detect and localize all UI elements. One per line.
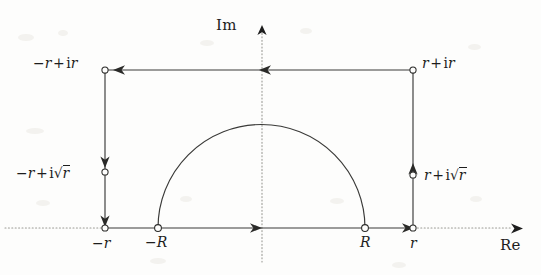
real-axis-label: Re [500,238,521,253]
paper-speckle [468,44,481,50]
marker-bottom-left [102,225,108,231]
plus-sign: + [429,55,444,71]
label-minus-r-axis: −r [92,236,110,250]
radical-sign: √ [54,165,63,181]
radius-r: r [71,55,78,71]
plus-sign: + [51,55,66,71]
paper-speckle [150,258,166,264]
paper-speckle [180,196,192,202]
minus-sign: − [145,234,157,250]
label-top-right-corner: r+ir [422,56,455,70]
paper-speckle [58,30,68,36]
paper-speckle [36,200,50,206]
marker-top-left [102,67,108,73]
paper-speckle [26,128,44,134]
plus-sign: + [431,167,446,183]
label-left-mid: −r+i√r [16,164,70,180]
label-R: R [360,235,371,249]
sqrt-group: √r [450,166,467,182]
sqrt-group: √r [54,164,71,180]
plus-sign: + [34,165,49,181]
paper-speckle [392,262,406,268]
radius-r: r [424,167,431,183]
minus-sign: − [16,165,28,181]
imaginary-axis-label: Im [216,18,237,33]
paper-speckle [470,196,482,202]
marker-bottom-right [410,225,416,231]
label-r-axis: r [410,236,417,250]
marker-minus-R [155,225,162,232]
label-top-left-corner: −r+ir [33,56,77,70]
minus-sign: − [33,55,45,71]
radius-r: r [104,235,111,251]
paper-speckle [330,198,344,204]
radius-r: r [422,55,429,71]
label-right-mid: r+i√r [424,166,467,182]
marker-left-mid [102,169,108,175]
label-minus-R: −R [145,235,167,249]
radius-R: R [157,234,168,250]
paper-speckle [18,34,34,41]
marker-top-right [410,67,416,73]
radical-sign: √ [450,167,459,183]
contour-diagram: Im Re −r+ir r+ir −r+i√r r+i√r −r r −R R [0,0,541,275]
paper-speckle [200,40,214,46]
paper-speckle [300,28,312,34]
radius-r: r [448,55,455,71]
diagram-canvas [0,0,541,275]
marker-R [362,225,369,232]
marker-right-mid [410,172,416,178]
radicand-r: r [63,165,71,180]
minus-sign: − [92,235,104,251]
radicand-r: r [459,167,467,182]
real-axis-arrowhead [511,224,523,234]
